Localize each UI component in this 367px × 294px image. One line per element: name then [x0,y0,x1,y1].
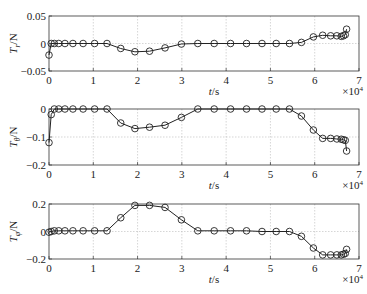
x-axis-label: t/s [209,85,219,97]
x-tick-label: 4 [223,168,229,180]
x-tick-label: 1 [91,74,97,86]
x-tick-label: 0 [46,74,52,86]
y-tick-label: 0 [41,103,47,115]
grid [49,109,359,165]
x-tick-label: 1 [91,262,97,274]
y-axis-label: Tθ/N [7,126,22,147]
x-multiplier: ×104 [342,85,363,97]
x-tick-label: 2 [135,262,141,274]
x-tick-label: 0 [46,262,52,274]
subplot-1: 0.050−0.0501234567t/s×104Tr/N [7,10,364,97]
data-point-marker [343,246,350,253]
x-tick-label: 4 [223,262,229,274]
x-multiplier: ×104 [342,273,363,285]
y-tick-label: −0.2 [26,159,46,171]
y-tick-label: −0.2 [26,253,46,265]
subplot-3: 0.20−0.201234567t/s×104Tφ/N [7,198,364,285]
x-axis-label: t/s [209,179,219,191]
x-tick-label: 6 [312,74,318,86]
x-multiplier: ×104 [342,179,363,191]
data-line [49,205,347,255]
x-tick-label: 4 [223,74,229,86]
x-axis-label: t/s [209,273,219,285]
x-tick-label: 6 [312,168,318,180]
subplot-2: 0−0.1−0.201234567t/s×104Tθ/N [7,103,364,191]
chart-figure: 0.050−0.0501234567t/s×104Tr/N0−0.1−0.201… [0,0,367,294]
x-tick-label: 6 [312,262,318,274]
x-tick-label: 5 [268,74,274,86]
x-tick-label: 5 [268,168,274,180]
x-tick-label: 0 [46,168,52,180]
x-tick-label: 3 [179,74,185,86]
y-axis-label: Tφ/N [7,221,22,243]
y-tick-label: 0.05 [27,10,47,22]
x-tick-label: 1 [91,168,97,180]
x-tick-label: 2 [135,168,141,180]
data-line [49,109,347,151]
x-tick-label: 5 [268,262,274,274]
y-tick-label: 0 [41,38,47,50]
x-tick-label: 2 [135,74,141,86]
x-tick-label: 3 [179,262,185,274]
data-line [49,29,347,55]
y-tick-label: −0.05 [21,65,47,77]
y-tick-label: −0.1 [26,131,46,143]
y-tick-label: 0.2 [32,198,46,210]
y-axis-label: Tr/N [7,33,22,53]
x-tick-label: 3 [179,168,185,180]
